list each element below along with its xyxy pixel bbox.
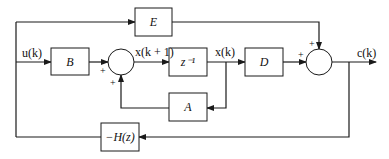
signal-input-label: u(k) bbox=[22, 46, 42, 60]
block-a: A bbox=[169, 93, 207, 121]
summing-junction-2 bbox=[306, 49, 332, 75]
block-d-label: D bbox=[259, 55, 269, 69]
block-delay: z⁻¹ bbox=[169, 48, 207, 76]
block-b: B bbox=[51, 48, 89, 75]
block-e: E bbox=[135, 8, 172, 36]
block-h: −H(z) bbox=[101, 123, 139, 151]
block-h-label: −H(z) bbox=[105, 130, 134, 144]
sign-sum1-a: + bbox=[110, 77, 116, 88]
signal-next-state-label: x(k + 1) bbox=[135, 45, 174, 59]
block-e-label: E bbox=[149, 15, 158, 29]
block-delay-label: z⁻¹ bbox=[180, 55, 196, 69]
line-state-to-a bbox=[207, 62, 226, 108]
signal-output-label: c(k) bbox=[357, 46, 376, 60]
block-d: D bbox=[245, 48, 283, 76]
block-b-label: B bbox=[66, 55, 74, 69]
line-e-to-sum2 bbox=[172, 22, 319, 49]
sign-sum2-d: + bbox=[298, 49, 304, 60]
signal-state-label: x(k) bbox=[215, 45, 235, 59]
summing-junction-1 bbox=[108, 49, 134, 75]
block-a-label: A bbox=[183, 100, 192, 114]
block-diagram: E B z⁻¹ D A −H(z) + + + + u(k) x(k + 1) … bbox=[0, 0, 389, 159]
line-a-to-sum1 bbox=[121, 75, 169, 108]
sign-sum2-e: + bbox=[309, 38, 315, 49]
sign-sum1-b: + bbox=[100, 65, 106, 76]
